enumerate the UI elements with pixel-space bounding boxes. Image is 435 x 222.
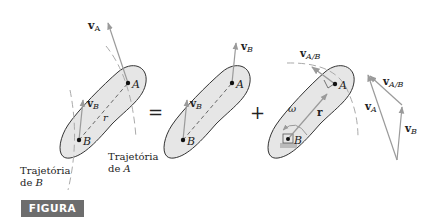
relative-velocity-diagram: vA A vB r B Trajetória de A Trajetória d… — [0, 0, 435, 222]
plus-sign: + — [250, 102, 265, 123]
panel-absolute-motion: vA A vB r B Trajetória de A Trajetória d… — [20, 19, 158, 190]
svg-text:B: B — [186, 135, 195, 148]
svg-text:Trajetória: Trajetória — [108, 151, 158, 162]
svg-text:vB: vB — [240, 40, 253, 54]
svg-text:r: r — [317, 106, 323, 118]
svg-text:vA: vA — [364, 100, 377, 114]
svg-text:de B: de B — [20, 177, 43, 188]
figure-number-badge: FIGURA 5/6 — [21, 200, 84, 217]
point-a-dot — [126, 81, 130, 85]
svg-text:A: A — [131, 78, 140, 91]
panel-rotation: vA/B A ω r B — [268, 47, 358, 158]
svg-text:A: A — [235, 78, 244, 91]
panel-translation: vB A vB B — [164, 40, 253, 158]
svg-text:vA: vA — [87, 19, 100, 33]
svg-text:B: B — [82, 135, 91, 148]
svg-text:ω: ω — [288, 103, 296, 114]
point-a-dot-3 — [333, 82, 337, 86]
point-b-dot-3 — [286, 137, 290, 141]
velocity-vector-triangle: vA/B vA vB — [364, 75, 417, 160]
triangle-vB-arrow — [397, 107, 402, 160]
svg-text:Trajetória: Trajetória — [20, 165, 70, 176]
point-b-dot — [77, 138, 81, 142]
svg-text:vA/B: vA/B — [382, 75, 404, 89]
svg-text:B: B — [293, 134, 302, 147]
svg-text:vB: vB — [404, 122, 417, 136]
svg-text:vA/B: vA/B — [299, 47, 321, 61]
point-a-dot-2 — [230, 81, 234, 85]
point-b-dot-2 — [181, 138, 185, 142]
svg-text:de A: de A — [108, 163, 131, 174]
equals-sign: = — [148, 102, 163, 123]
svg-text:A: A — [338, 79, 347, 92]
